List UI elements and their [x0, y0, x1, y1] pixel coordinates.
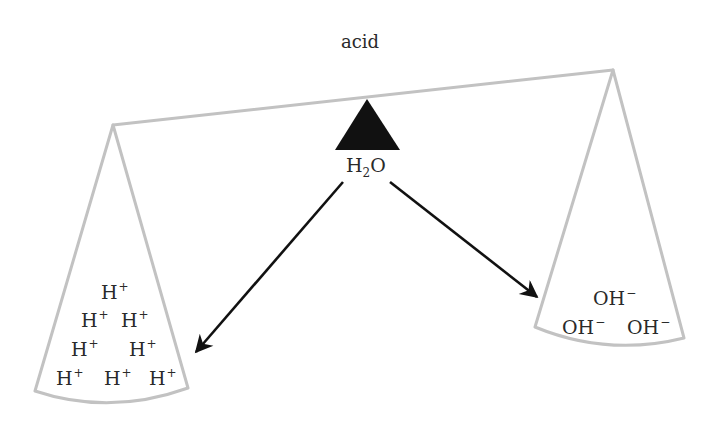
water-o: O [370, 154, 386, 176]
oh-ion: OH− [593, 289, 636, 308]
h-ion: H+ [71, 340, 99, 359]
oh-ion: OH− [562, 318, 605, 337]
oh-ion: OH− [627, 318, 670, 337]
fulcrum-triangle [335, 99, 400, 150]
h-ion: H+ [104, 369, 132, 388]
h-ion: H+ [149, 369, 177, 388]
water-subscript: 2 [363, 166, 371, 180]
h-ion: H+ [81, 311, 109, 330]
balance-diagram [0, 0, 720, 428]
h-ion: H+ [101, 283, 129, 302]
diagram-title: acid [341, 33, 379, 51]
water-h: H [346, 154, 363, 176]
arrow-to-right-pan [390, 182, 537, 297]
h-ion: H+ [121, 311, 149, 330]
arrow-to-left-pan [196, 182, 343, 352]
h-ion: H+ [56, 369, 84, 388]
h-ion: H+ [129, 340, 157, 359]
water-label: H2O [346, 156, 386, 175]
left-pan [35, 125, 188, 403]
